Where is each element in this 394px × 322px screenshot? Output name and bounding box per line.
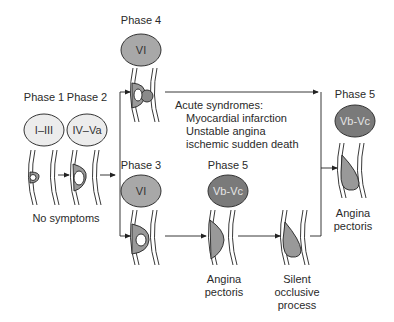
artery-phase5-right [337,143,366,198]
phase5-right-label: Phase 5 [335,88,375,101]
phase4-label: Phase 4 [121,14,161,27]
artery-phase2 [70,150,101,205]
diagram-canvas [0,0,394,322]
phase3-stage: VI [136,185,146,197]
acute-item-mi: Myocardial infarction [186,112,287,125]
acute-syndromes-title: Acute syndromes: [175,99,263,112]
phase2-stage: IV–Va [72,124,101,136]
phase5-middle-label: Phase 5 [208,159,248,172]
phase5-middle-stage: Vb-Vc [213,185,243,197]
artery-phase5-middle [208,210,237,265]
angina-middle-line1: Angina [207,273,241,286]
acute-item-sudden-death: ischemic sudden death [186,138,299,151]
angina-right-line2: pectoris [334,220,373,233]
artery-phase3 [130,210,159,265]
angina-right-line1: Angina [336,207,370,220]
phase3-label: Phase 3 [121,159,161,172]
no-symptoms-caption: No symptoms [32,212,99,225]
phase1-label: Phase 1 [24,91,64,104]
silent-line1: Silent [283,273,311,286]
acute-item-unstable-angina: Unstable angina [186,125,266,138]
phase2-label: Phase 2 [67,91,107,104]
angina-middle-line2: pectoris [205,286,244,299]
phase5-right-stage: Vb-Vc [340,115,370,127]
silent-line3: process [278,299,317,312]
artery-phase4 [130,68,159,122]
artery-phase1 [28,150,59,205]
artery-silent [280,210,309,265]
silent-line2: occlusive [274,286,319,299]
phase1-stage: I–III [35,124,53,136]
phase4-stage: VI [136,44,146,56]
